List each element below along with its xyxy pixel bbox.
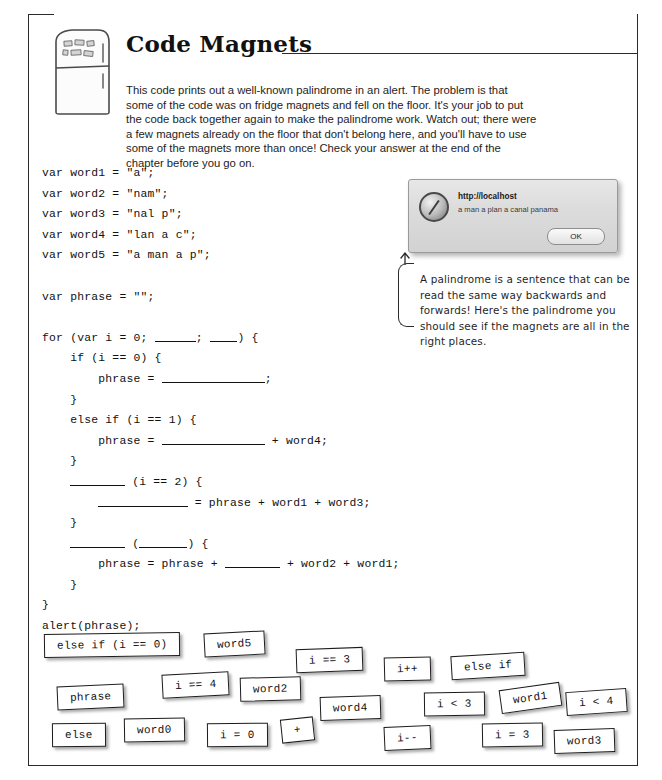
code-magnet[interactable]: i < 3 xyxy=(424,692,485,717)
code-magnet[interactable]: i < 4 xyxy=(565,688,627,716)
code-magnet[interactable]: else xyxy=(52,723,106,747)
code-magnet[interactable]: word1 xyxy=(499,682,562,714)
magnet-tray: else if (i == 0)word5i == 3i++else ifi =… xyxy=(0,0,662,780)
code-magnet[interactable]: + xyxy=(280,716,315,743)
code-magnet[interactable]: i = 3 xyxy=(482,722,543,747)
code-magnet[interactable]: i = 0 xyxy=(207,723,268,748)
code-magnet[interactable]: word3 xyxy=(554,728,615,754)
code-magnet[interactable]: i == 3 xyxy=(296,647,364,673)
code-magnet[interactable]: word4 xyxy=(320,695,381,721)
code-magnet[interactable]: word5 xyxy=(203,630,265,657)
code-magnet[interactable]: else if xyxy=(450,652,526,680)
code-magnet[interactable]: i == 4 xyxy=(161,671,230,698)
code-magnet[interactable]: i-- xyxy=(383,725,431,751)
code-magnet[interactable]: else if (i == 0) xyxy=(44,632,181,658)
code-magnet[interactable]: i++ xyxy=(384,656,431,681)
code-magnet[interactable]: phrase xyxy=(57,684,125,711)
code-magnet[interactable]: word0 xyxy=(124,717,185,742)
code-magnet[interactable]: word2 xyxy=(240,676,301,702)
